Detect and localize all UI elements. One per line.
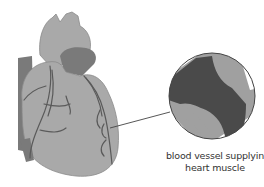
diagram-canvas: blood vessel supplying heart muscle [0,0,264,187]
caption-line-2: heart muscle [166,162,264,174]
leader-line [110,112,170,128]
heart-illustration [18,12,119,176]
vessel-caption: blood vessel supplying heart muscle [166,150,264,174]
caption-line-1: blood vessel supplying [166,150,264,162]
magnified-inset [150,50,260,150]
heart-body [22,62,119,177]
